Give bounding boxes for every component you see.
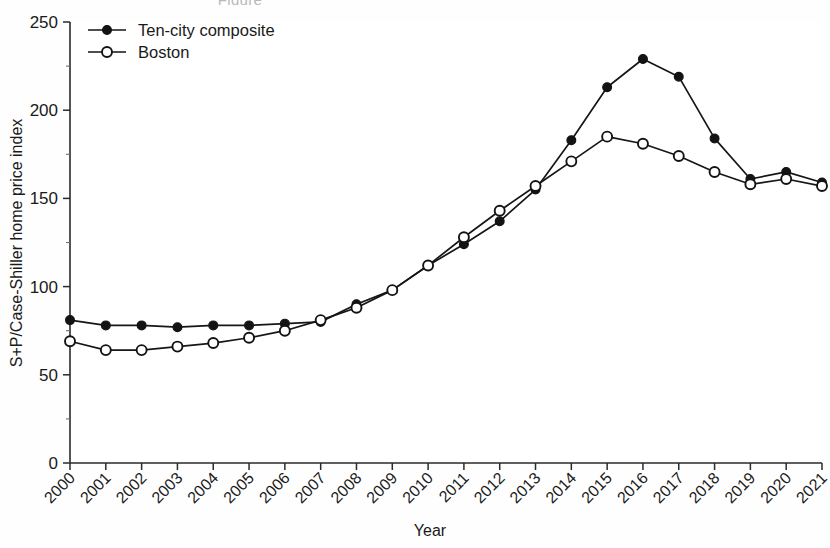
data-point-marker: [639, 55, 648, 64]
x-tick-label: 2009: [363, 469, 400, 506]
x-tick-label: 2008: [327, 469, 364, 506]
x-tick-label: 2000: [41, 469, 78, 506]
x-tick-label: 2016: [614, 469, 651, 506]
x-axis: 2000200120022003200420052006200720082009…: [41, 463, 830, 506]
y-tick-label: 100: [30, 278, 58, 297]
line-chart: 050100150200250 200020012002200320042005…: [0, 0, 830, 548]
legend-item-label: Ten-city composite: [138, 21, 275, 39]
x-tick-label: 2019: [721, 469, 758, 506]
data-point-marker: [495, 217, 504, 226]
y-axis: 050100150200250: [30, 13, 70, 473]
data-point-marker: [65, 336, 75, 346]
data-point-marker: [495, 206, 505, 216]
x-tick-label: 2011: [436, 469, 472, 505]
x-tick-label: 2017: [650, 469, 687, 506]
legend-item-label: Boston: [138, 43, 189, 61]
data-point-marker: [745, 179, 755, 189]
x-tick-label: 2005: [220, 469, 257, 506]
data-point-marker: [781, 174, 791, 184]
data-point-marker: [66, 316, 75, 325]
data-point-marker: [603, 83, 612, 92]
x-tick-label: 2007: [292, 469, 329, 506]
x-tick-label: 2001: [77, 469, 114, 506]
x-tick-label: 2010: [399, 469, 436, 506]
x-tick-label: 2020: [757, 469, 794, 506]
data-point-marker: [674, 72, 683, 81]
x-tick-label: 2021: [793, 469, 830, 506]
data-point-marker: [602, 132, 612, 142]
data-point-marker: [459, 232, 469, 242]
data-point-marker: [567, 136, 576, 145]
legend-swatch-marker: [102, 47, 112, 57]
x-tick-label: 2018: [686, 469, 723, 506]
x-axis-title: Year: [414, 522, 447, 539]
y-tick-label: 150: [30, 189, 58, 208]
data-point-marker: [245, 321, 254, 330]
x-tick-label: 2015: [578, 469, 615, 506]
data-point-marker: [710, 134, 719, 143]
data-point-marker: [172, 342, 182, 352]
y-tick-label: 250: [30, 13, 58, 32]
x-tick-label: 2013: [506, 469, 543, 506]
data-point-marker: [638, 139, 648, 149]
figure-root: Figure 050100150200250 20002001200220032…: [0, 0, 830, 548]
data-point-marker: [173, 323, 182, 332]
data-point-marker: [531, 181, 541, 191]
y-tick-label: 200: [30, 101, 58, 120]
x-tick-label: 2003: [148, 469, 185, 506]
data-point-marker: [137, 321, 146, 330]
data-point-marker: [137, 345, 147, 355]
y-tick-label: 50: [39, 366, 58, 385]
data-point-marker: [208, 338, 218, 348]
data-point-marker: [710, 167, 720, 177]
x-tick-label: 2014: [542, 469, 579, 506]
data-point-marker: [817, 181, 827, 191]
data-point-marker: [280, 326, 290, 336]
x-tick-label: 2002: [113, 469, 150, 506]
data-point-marker: [316, 315, 326, 325]
data-point-marker: [423, 260, 433, 270]
data-point-marker: [209, 321, 218, 330]
legend-swatch-marker: [103, 26, 112, 35]
data-point-marker: [101, 321, 110, 330]
data-point-marker: [566, 156, 576, 166]
data-point-marker: [674, 151, 684, 161]
data-point-marker: [351, 303, 361, 313]
data-point-marker: [244, 333, 254, 343]
chart-plot-background: [70, 22, 822, 463]
data-point-marker: [101, 345, 111, 355]
x-tick-label: 2004: [184, 469, 221, 506]
y-tick-label: 0: [49, 454, 58, 473]
x-tick-label: 2012: [471, 469, 508, 506]
y-axis-title: S+P/Case-Shiller home price index: [8, 119, 25, 368]
x-tick-label: 2006: [256, 469, 293, 506]
data-point-marker: [387, 285, 397, 295]
